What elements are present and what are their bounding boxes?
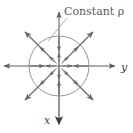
y-axis-label: y (120, 61, 128, 74)
axis-group (4, 12, 115, 124)
annotation-leader-line (48, 18, 67, 41)
unit-vector-135 (50, 57, 57, 64)
constant-rho-label: Constant ρ (64, 5, 124, 18)
unit-vector-315 (62, 69, 69, 76)
x-axis-label: x (44, 114, 51, 127)
unit-vector-45 (62, 57, 69, 64)
cylindrical-coordinate-figure: Constant ρ y x (0, 0, 133, 133)
unit-vector-225 (50, 69, 57, 76)
figure-canvas: Constant ρ y x (0, 0, 133, 133)
